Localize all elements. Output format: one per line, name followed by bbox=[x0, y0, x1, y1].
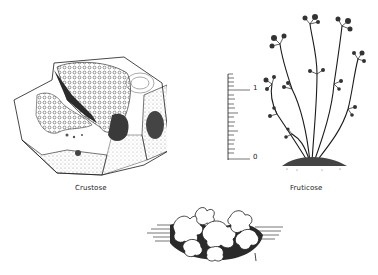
fruticose-caption: Fruticose bbox=[290, 184, 323, 192]
lichen-growth-forms-figure: Crustose bbox=[0, 0, 378, 275]
crustose-caption: Crustose bbox=[75, 184, 107, 192]
scale-label-top: 1 bbox=[253, 84, 257, 92]
crustose-illustration bbox=[12, 55, 167, 180]
scale-bar bbox=[226, 72, 256, 162]
scale-label-bottom: 0 bbox=[253, 153, 257, 161]
fruticose-illustration bbox=[262, 14, 367, 172]
foliose-illustration bbox=[145, 205, 285, 265]
